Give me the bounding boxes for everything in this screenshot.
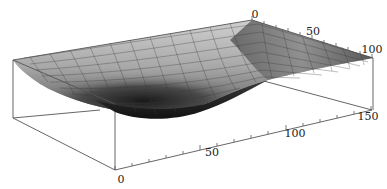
x-tick-label-150: 150 bbox=[358, 110, 379, 123]
box-edge-back-left-bottom bbox=[13, 110, 100, 118]
x-axis-line bbox=[115, 110, 372, 170]
y-tick-label-0: 0 bbox=[252, 8, 259, 21]
x-tick-label-100: 100 bbox=[285, 127, 306, 140]
box-edge-bottom-left bbox=[13, 118, 115, 170]
y-tick-label-100: 100 bbox=[362, 43, 383, 56]
x-tick-label-50: 50 bbox=[205, 146, 219, 159]
x-tick-label-0: 0 bbox=[118, 173, 125, 186]
y-tick-label-50: 50 bbox=[306, 25, 320, 38]
surface-plot-3d: 0 50 100 150 0 50 100 bbox=[0, 0, 387, 189]
